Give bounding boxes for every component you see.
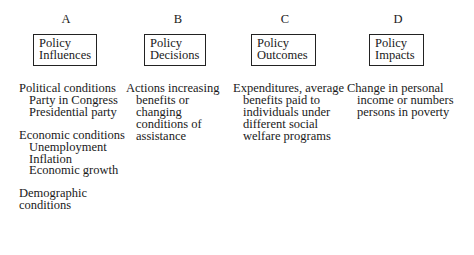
policy-impacts-text: Change in personal income or numbers per… xyxy=(347,83,454,119)
box-line: Outcomes xyxy=(257,49,310,61)
policy-outcomes-text: Expenditures, average benefits paid to i… xyxy=(233,83,344,143)
text-line: persons in poverty xyxy=(347,107,454,119)
policy-influences-list: Political conditions Party in Congress P… xyxy=(19,83,125,212)
text-line: assistance xyxy=(126,131,219,143)
text-line: welfare programs xyxy=(233,131,344,143)
list-item: Economic growth xyxy=(19,165,125,177)
policy-impacts-box: Policy Impacts xyxy=(369,34,424,66)
box-line: Impacts xyxy=(375,49,418,61)
policy-decisions-text: Actions increasing benefits or changing … xyxy=(126,83,219,143)
box-line: Decisions xyxy=(150,49,200,61)
box-line: Influences xyxy=(39,49,91,61)
policy-decisions-box: Policy Decisions xyxy=(144,34,206,66)
column-label-d: D xyxy=(388,12,408,27)
column-label-b: B xyxy=(168,12,188,27)
policy-outcomes-box: Policy Outcomes xyxy=(251,34,316,66)
policy-influences-box: Policy Influences xyxy=(33,34,97,66)
column-label-c: C xyxy=(275,12,295,27)
list-item: Presidential party xyxy=(19,107,125,119)
column-label-a: A xyxy=(56,12,76,27)
group-heading-cont: conditions xyxy=(19,200,125,212)
